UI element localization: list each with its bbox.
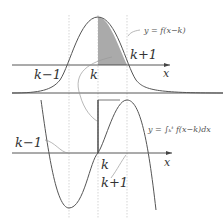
bottom-label-k-plus-1: k+1: [101, 176, 128, 189]
bell-curve-label: y = f(x−k): [144, 27, 186, 35]
top-label-x: x: [163, 68, 169, 79]
bottom-axis-arrow-icon: [166, 151, 172, 155]
top-label-k: k: [90, 68, 98, 81]
bottom-label-k: k: [101, 158, 109, 171]
bottom-label-k-minus-1: k−1: [15, 136, 42, 149]
top-label-k-plus-1: k+1: [130, 48, 157, 61]
shaded-area: [98, 17, 127, 65]
integral-curve-label: y = ∫ₖᵗ f(x−k)dx: [148, 126, 211, 134]
diagram: y = f(x−k) k+1 k−1 k x y = ∫ₖᵗ f(x−k)dx …: [0, 0, 223, 219]
bottom-label-x: x: [164, 157, 170, 168]
top-label-k-minus-1: k−1: [34, 68, 61, 81]
pointer-curve-label: [128, 30, 140, 36]
